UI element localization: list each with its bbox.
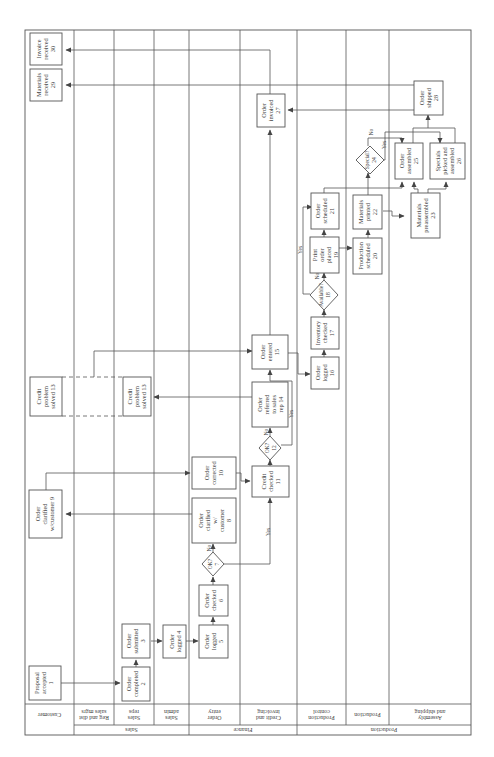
svg-text:1: 1 (47, 681, 54, 684)
svg-text:Materials: Materials (357, 200, 364, 224)
node-19-print-order-placed: Print order placed 19 (310, 237, 339, 273)
svg-text:completed: completed (132, 670, 139, 697)
svg-text:logged 4: logged 4 (175, 630, 182, 653)
svg-text:10: 10 (217, 470, 224, 476)
edge-13-15 (94, 351, 252, 377)
svg-text:11: 11 (274, 478, 281, 484)
svg-text:entered: entered (266, 342, 273, 361)
edge-23-26 (428, 182, 446, 193)
node-5-order-logged: Order logged 5 (199, 625, 228, 658)
svg-text:19: 19 (332, 252, 339, 258)
svg-text:15: 15 (273, 349, 280, 355)
svg-text:5: 5 (217, 640, 224, 643)
lane-headers: Customer Reg and dist sales mgrs Sales r… (38, 709, 446, 734)
svg-text:scheduled: scheduled (321, 198, 328, 224)
svg-text:12: 12 (271, 445, 277, 451)
svg-text:reps: reps (128, 709, 139, 715)
lane-header-reg-dist-mgrs: Reg and dist sales mgrs (79, 709, 109, 722)
svg-text:Sales: Sales (125, 727, 138, 733)
edge-27-30 (66, 50, 270, 94)
svg-text:2: 2 (139, 682, 146, 685)
svg-text:Proposal: Proposal (33, 672, 40, 694)
svg-text:18: 18 (325, 292, 331, 298)
svg-text:Credit: Credit (126, 388, 133, 404)
svg-text:logged: logged (210, 632, 217, 650)
node-10-order-corrected: Order corrected 10 (192, 457, 236, 489)
lane-header-credit-invoicing: Credit and invoicing (256, 709, 281, 722)
svg-text:Yes: Yes (381, 141, 387, 149)
svg-text:Inventory: Inventory (314, 320, 321, 345)
svg-text:Order: Order (208, 715, 222, 721)
svg-text:admin: admin (164, 709, 179, 715)
svg-text:accepted: accepted (40, 671, 47, 694)
svg-text:problem: problem (133, 386, 140, 407)
svg-text:Order: Order (259, 344, 266, 360)
node-13-credit-problem-solved-sales-reps: Credit problem solved 13 (123, 377, 151, 416)
svg-text:No: No (206, 544, 212, 551)
svg-text:Yes: Yes (265, 528, 271, 536)
lane-header-production-control: Production control (308, 709, 334, 722)
svg-text:16: 16 (328, 370, 335, 376)
connectors: No Yes No Yes No Yes (46, 50, 455, 683)
svg-text:assembled: assembled (448, 147, 455, 174)
node-14-order-referred-to-sales-rep: Order referred to sales rep 14 (252, 382, 288, 427)
node-7-ok-decision: OK? 7 (202, 552, 224, 576)
svg-text:referred: referred (263, 394, 270, 415)
svg-text:Materials: Materials (35, 73, 42, 97)
node-6-order-checked: Order checked 6 (199, 585, 228, 616)
svg-text:problem: problem (42, 386, 49, 407)
node-25-order-assembled: Order assembled 25 (395, 143, 423, 179)
node-12-ok-decision: OK? 12 (259, 436, 281, 460)
svg-text:Available?: Available? (318, 283, 324, 307)
node-13-credit-problem-solved-customer: Credit problem solved 13 (30, 377, 62, 416)
svg-text:No: No (263, 428, 269, 435)
svg-text:scheduled: scheduled (364, 243, 371, 269)
svg-text:Customer: Customer (38, 712, 61, 718)
node-8-order-clarified-w-customer: Order clarified w/ customer 8 (192, 498, 236, 543)
svg-text:27: 27 (274, 107, 281, 113)
svg-text:Order: Order (260, 102, 267, 118)
svg-text:Order: Order (203, 633, 210, 649)
node-28-order-shipped: Order shipped 28 (414, 81, 443, 115)
node-1-proposal-accepted: Proposal accepted 1 (29, 666, 61, 700)
svg-text:28: 28 (432, 95, 439, 101)
svg-text:Special?: Special? (364, 150, 370, 169)
svg-text:Order: Order (34, 506, 41, 522)
node-11-credit-checked: Credit checked 11 (252, 466, 289, 497)
svg-text:Order: Order (256, 396, 263, 412)
svg-text:Assembly: Assembly (418, 715, 442, 721)
svg-text:assembled: assembled (405, 147, 412, 174)
svg-text:logged: logged (321, 364, 328, 382)
svg-text:25: 25 (412, 158, 419, 164)
svg-text:Production: Production (357, 241, 364, 269)
node-29-materials-received: Materials received 29 (30, 69, 62, 101)
svg-text:Order: Order (203, 592, 210, 608)
svg-text:placed: placed (325, 246, 332, 263)
lane-header-production: Production (354, 712, 380, 718)
svg-text:shipped: shipped (425, 87, 432, 107)
node-16-order-logged: Order logged 16 (311, 357, 339, 389)
node-18-available-decision: Available? 18 (310, 280, 338, 310)
svg-text:customer: customer (218, 508, 225, 532)
lane-header-customer: Customer (38, 712, 61, 718)
svg-text:Order: Order (203, 465, 210, 481)
svg-text:Order: Order (418, 90, 425, 106)
svg-text:20: 20 (371, 253, 378, 259)
svg-text:OK?: OK? (264, 442, 270, 453)
svg-text:29: 29 (49, 82, 56, 88)
node-22-materials-printed: Materials printed 22 (353, 195, 382, 229)
svg-text:checked: checked (210, 589, 217, 610)
svg-text:30: 30 (49, 46, 56, 52)
node-3-order-submitted: Order submitted 3 (122, 624, 150, 658)
node-20-production-scheduled: Production scheduled 20 (353, 238, 382, 274)
svg-text:invoiced: invoiced (267, 99, 274, 122)
edge-9-10 (46, 473, 190, 490)
svg-text:3: 3 (139, 639, 146, 642)
svg-text:Order: Order (125, 676, 132, 692)
node-24-special-decision: Special? 24 (356, 146, 384, 174)
svg-text:w/customer 9: w/customer 9 (48, 497, 55, 531)
node-9-order-clarified-w-customer: Order clarified w/customer 9 (29, 490, 62, 538)
node-15-order-entered: Order entered 15 (252, 335, 288, 369)
svg-text:7: 7 (214, 562, 220, 565)
svg-text:rep 14: rep 14 (277, 396, 284, 413)
